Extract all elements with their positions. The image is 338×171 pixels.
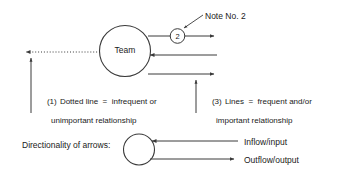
legend-heading: Directionality of arrows: (22, 140, 110, 150)
caption-3-line1: Lines = frequent and/or (225, 97, 312, 106)
legend-outflow-label: Outflow/output (244, 155, 299, 165)
caption-3-line2: important relationship (216, 116, 312, 125)
team-node-label: Team (104, 45, 146, 55)
caption-1-number: (1) (47, 97, 60, 106)
note-leader-line (184, 15, 203, 28)
caption-3-number: (3) (212, 97, 225, 106)
note-callout-label: Note No. 2 (205, 11, 246, 21)
caption-1-line1: Dotted line = infrequent or (60, 97, 157, 106)
note-marker-number: 2 (172, 33, 183, 42)
diagram-canvas: Team Note No. 2 2 (1)Dotted line = infre… (0, 0, 338, 171)
legend-inflow-label: Inflow/input (244, 137, 287, 147)
caption-dotted-line: (1)Dotted line = infrequent or unimporta… (38, 88, 157, 145)
caption-1-line2: unimportant relationship (51, 116, 157, 125)
